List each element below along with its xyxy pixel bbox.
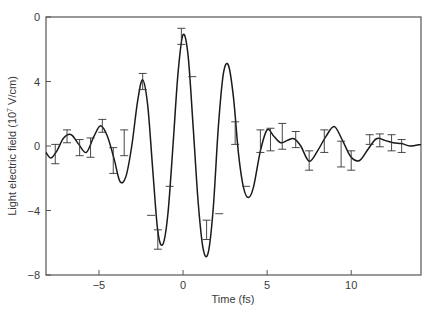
error-bar — [154, 230, 162, 249]
y-axis-title-main: Light electric field (10 — [6, 112, 18, 216]
x-tick-label: 5 — [264, 279, 270, 291]
plot-frame — [46, 17, 421, 275]
error-bar — [278, 123, 286, 149]
x-tick-label: −5 — [93, 279, 106, 291]
y-tick-label: 0 — [34, 11, 40, 23]
y-tick-label: 0 — [34, 140, 40, 152]
error-bar — [177, 28, 185, 44]
x-tick-label: 0 — [180, 279, 186, 291]
y-tick-label: 4 — [34, 76, 40, 88]
y-axis-title-tail: V/cm) — [6, 76, 18, 108]
error-bar — [203, 220, 211, 239]
plot-border — [46, 17, 421, 275]
x-axis-title: Time (fs) — [212, 293, 255, 305]
error-bars — [51, 28, 405, 249]
error-bar — [120, 130, 128, 156]
chart: −50510 040−4−8 Time (fs) Light electric … — [0, 0, 432, 314]
field-curve — [46, 34, 421, 257]
error-bar — [266, 128, 274, 151]
error-bar — [398, 140, 406, 153]
error-bar — [292, 131, 300, 147]
x-axis-ticks: −50510 — [93, 270, 358, 291]
y-tick-label: −8 — [27, 269, 40, 281]
field-line — [46, 34, 421, 257]
error-bar — [87, 138, 95, 157]
y-axis-title: Light electric field (107 V/cm) — [6, 76, 18, 216]
y-tick-label: −4 — [27, 205, 40, 217]
x-tick-label: 10 — [345, 279, 357, 291]
y-axis-ticks: 040−4−8 — [27, 11, 51, 281]
